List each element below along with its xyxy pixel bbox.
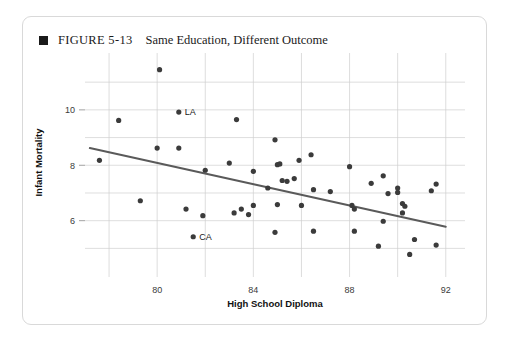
data-point bbox=[407, 252, 412, 257]
data-point bbox=[292, 176, 297, 181]
data-point bbox=[434, 182, 439, 187]
data-point bbox=[328, 189, 333, 194]
x-axis-title: High School Diploma bbox=[227, 298, 323, 309]
data-point bbox=[157, 67, 162, 72]
data-point bbox=[203, 168, 208, 173]
data-point bbox=[138, 198, 143, 203]
data-point bbox=[272, 230, 277, 235]
data-point bbox=[299, 203, 304, 208]
data-point bbox=[232, 210, 237, 215]
data-point bbox=[191, 234, 196, 239]
y-axis-title: Infant Mortality bbox=[33, 128, 44, 197]
data-point bbox=[183, 206, 188, 211]
data-point bbox=[239, 206, 244, 211]
data-point bbox=[272, 137, 277, 142]
data-point bbox=[246, 212, 251, 217]
data-point bbox=[352, 206, 357, 211]
data-point bbox=[402, 204, 407, 209]
data-point bbox=[429, 188, 434, 193]
data-point bbox=[376, 244, 381, 249]
data-point bbox=[385, 191, 390, 196]
data-point bbox=[251, 203, 256, 208]
x-tick-label: 80 bbox=[152, 285, 162, 295]
data-point bbox=[369, 181, 374, 186]
data-point bbox=[176, 145, 181, 150]
data-point bbox=[381, 173, 386, 178]
y-tick-label: 6 bbox=[70, 216, 75, 226]
data-point bbox=[347, 164, 352, 169]
data-point bbox=[308, 152, 313, 157]
data-point bbox=[97, 158, 102, 163]
scatter-plot: 681080848892High School DiplomaInfant Mo… bbox=[0, 0, 510, 346]
data-point bbox=[227, 160, 232, 165]
y-tick-label: 8 bbox=[70, 161, 75, 171]
data-point bbox=[280, 178, 285, 183]
point-label-ca: CA bbox=[199, 232, 212, 242]
data-point bbox=[311, 187, 316, 192]
data-point bbox=[395, 190, 400, 195]
data-point bbox=[277, 161, 282, 166]
data-point bbox=[381, 219, 386, 224]
data-point bbox=[434, 242, 439, 247]
x-tick-label: 88 bbox=[345, 285, 355, 295]
data-point bbox=[116, 118, 121, 123]
data-point bbox=[155, 145, 160, 150]
data-point bbox=[311, 229, 316, 234]
data-point bbox=[395, 185, 400, 190]
data-point bbox=[265, 185, 270, 190]
data-point bbox=[275, 202, 280, 207]
data-point bbox=[412, 237, 417, 242]
data-point bbox=[234, 117, 239, 122]
point-label-la: LA bbox=[185, 107, 196, 117]
chart-svg: 681080848892High School DiplomaInfant Mo… bbox=[0, 0, 510, 346]
y-tick-label: 10 bbox=[65, 105, 75, 115]
x-tick-label: 92 bbox=[441, 285, 451, 295]
data-point bbox=[200, 213, 205, 218]
data-point bbox=[251, 169, 256, 174]
data-point bbox=[352, 229, 357, 234]
data-point bbox=[284, 179, 289, 184]
data-point bbox=[296, 158, 301, 163]
data-point bbox=[176, 109, 181, 114]
x-tick-label: 84 bbox=[248, 285, 258, 295]
data-point bbox=[400, 210, 405, 215]
